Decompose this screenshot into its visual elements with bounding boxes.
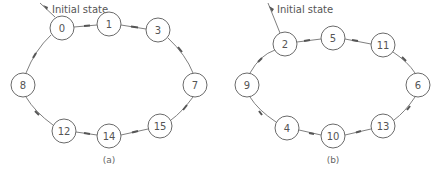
caption-a: (a)	[103, 155, 116, 165]
edge-5-11	[345, 39, 371, 44]
state-node: 7	[183, 73, 207, 97]
state-node: 8	[11, 73, 35, 97]
arrowhead-icon	[183, 105, 187, 110]
svg-text:15: 15	[154, 121, 167, 132]
svg-text:6: 6	[415, 80, 421, 91]
arrowhead-icon	[84, 133, 90, 134]
state-node: 10	[321, 124, 345, 148]
svg-text:10: 10	[327, 131, 340, 142]
arrowhead-icon	[304, 40, 310, 41]
arrowhead-icon	[131, 27, 138, 28]
arrowhead-icon	[43, 5, 48, 10]
state-node: 5	[321, 26, 345, 50]
state-node: 11	[371, 33, 395, 57]
edge-11-6	[393, 52, 415, 73]
state-node: 2	[273, 32, 297, 56]
svg-text:14: 14	[103, 131, 116, 142]
edge-9-2	[250, 50, 275, 73]
svg-text:3: 3	[155, 25, 161, 36]
arrowhead-icon	[35, 111, 39, 115]
svg-text:13: 13	[377, 121, 390, 132]
edge-12-8	[26, 97, 53, 125]
arrowhead-icon	[258, 58, 262, 62]
arrowhead-icon	[402, 57, 406, 61]
state-node: 13	[371, 114, 395, 138]
diagram-a: Initial state 0 1 3 7 15 14 12 8	[11, 3, 207, 165]
caption-b: (b)	[327, 155, 340, 165]
edge-3-7	[168, 38, 193, 73]
svg-text:5: 5	[330, 33, 336, 44]
edge-4-9	[250, 97, 276, 122]
initial-state-label-b: Initial state	[277, 4, 333, 15]
state-node: 14	[97, 124, 121, 148]
initial-state-label-a: Initial state	[52, 4, 108, 15]
state-node: 1	[97, 12, 121, 36]
arrowhead-icon	[259, 111, 262, 115]
edge-7-15	[171, 97, 193, 120]
svg-text:2: 2	[282, 39, 288, 50]
svg-text:4: 4	[284, 123, 290, 134]
svg-text:8: 8	[20, 80, 26, 91]
svg-text:12: 12	[58, 126, 71, 137]
diagram-b: Initial state 2 5 11 6 13 10 4 9 (b)	[235, 3, 430, 165]
svg-text:0: 0	[59, 23, 65, 34]
svg-text:11: 11	[377, 40, 390, 51]
state-node: 12	[52, 119, 76, 143]
svg-text:1: 1	[106, 19, 112, 30]
edge-8-0	[26, 35, 51, 73]
state-node: 0	[50, 16, 74, 40]
state-node: 4	[275, 116, 299, 140]
edge-6-13	[394, 97, 415, 120]
svg-text:9: 9	[244, 80, 250, 91]
arrowhead-icon	[84, 26, 90, 27]
arrowhead-icon	[33, 53, 36, 58]
svg-text:7: 7	[192, 80, 198, 91]
state-node: 6	[406, 73, 430, 97]
state-node: 9	[235, 73, 259, 97]
arrowhead-icon	[352, 40, 358, 41]
arrowhead-icon	[132, 131, 138, 133]
arrowhead-icon	[356, 131, 361, 133]
state-diagrams: Initial state 0 1 3 7 15 14 12 8	[0, 0, 439, 172]
state-node: 15	[148, 114, 172, 138]
arrowhead-icon	[309, 133, 314, 134]
state-node: 3	[146, 18, 170, 42]
